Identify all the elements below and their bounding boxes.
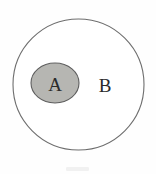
set-label-a: A [48,74,62,95]
venn-diagram-canvas: A B [0,0,156,174]
set-label-b: B [99,75,112,96]
venn-diagram-figure: A B [0,0,156,174]
scan-artifact [66,167,89,171]
